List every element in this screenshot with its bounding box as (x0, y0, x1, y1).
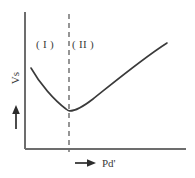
y-axis-label: Vs (9, 62, 21, 94)
x-axis-direction-arrow-icon (75, 159, 96, 167)
plot-canvas (0, 0, 195, 178)
x-axis-label: Pd' (102, 157, 116, 169)
y-axis-direction-arrow-icon (12, 105, 20, 129)
figure-container: ( I ) ( II ) Vs Pd' (0, 0, 195, 178)
vs-pd-curve (31, 43, 167, 111)
region-label-one: ( I ) (36, 38, 54, 50)
region-label-two: ( II ) (72, 38, 94, 50)
